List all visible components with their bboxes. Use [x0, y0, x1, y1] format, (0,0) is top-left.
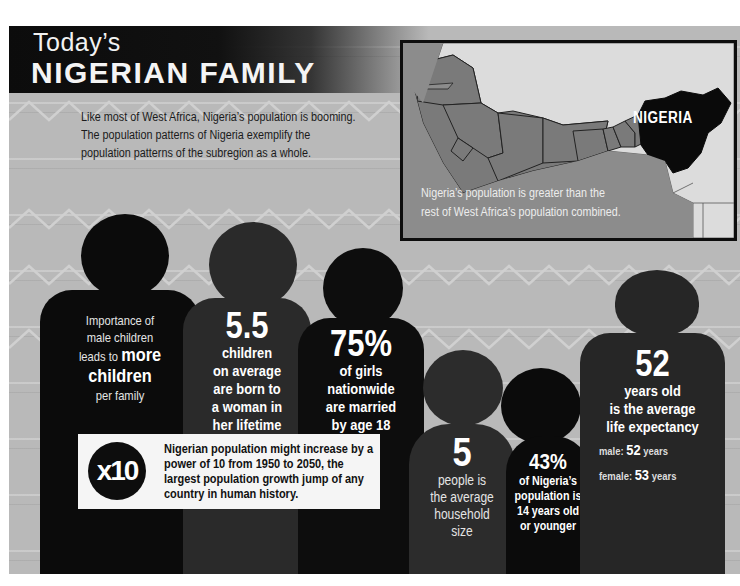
map-caption: Nigeria’s population is greater than the…	[421, 184, 679, 222]
figure-2-text: 5.5 children on average are born to a wo…	[192, 308, 302, 434]
figure-2-line: a woman in	[212, 398, 282, 415]
figure-5-line: 14 years old	[517, 504, 579, 518]
figure-5-head	[501, 368, 581, 444]
figure-2-line: her lifetime	[213, 416, 282, 433]
figure-5-line: or younger	[520, 519, 576, 533]
figure-4-line: the average	[430, 489, 494, 505]
figure-1-text: Importance of male children leads to mor…	[51, 312, 189, 404]
figure-2-line: are born to	[213, 380, 280, 397]
figure-3-stat: 75%	[307, 326, 415, 362]
figure-3-line: are married	[326, 398, 396, 415]
figure-1-line: male children	[87, 330, 154, 345]
figure-5-text: 43% of Nigeria’s population is 14 years …	[508, 450, 587, 534]
figure-4-head	[423, 350, 503, 426]
figure-2-head	[209, 222, 297, 308]
figure-4-stat: 5	[416, 432, 507, 472]
female-value: 53	[635, 466, 649, 483]
figure-6-line: years old	[624, 382, 681, 399]
figure-3-line: of girls	[339, 362, 382, 379]
growth-callout: x10 Nigerian population might increase b…	[78, 434, 380, 509]
figure-6-stat: 52	[590, 346, 715, 382]
female-unit: years	[652, 470, 677, 482]
figure-1-head	[81, 214, 169, 298]
growth-callout-text: Nigerian population might increase by a …	[164, 442, 375, 502]
male-label: male:	[599, 445, 624, 457]
figure-3-line: by age 18	[332, 416, 391, 433]
figure-6-line: is the average	[609, 400, 695, 417]
figure-4-line: size	[451, 523, 472, 539]
female-label: female:	[599, 470, 632, 482]
figure-1-line: per family	[96, 388, 144, 403]
caption-line-2: rest of West Africa’s population combine…	[421, 205, 621, 219]
figure-2-line: children	[222, 344, 272, 361]
intro-text: Like most of West Africa, Nigeria’s popu…	[81, 108, 362, 162]
figure-5-line: population is	[515, 489, 582, 503]
infographic-panel: Today’s NIGERIAN FAMILY Like most of Wes…	[9, 26, 740, 574]
nigeria-label: NIGERIA	[633, 109, 693, 127]
figure-1-emphasis: children	[88, 365, 152, 386]
male-unit: years	[643, 445, 668, 457]
figure-2-stat: 5.5	[192, 308, 302, 344]
figure-6-head	[615, 270, 699, 336]
figure-5-stat: 43%	[508, 450, 587, 474]
figure-5-line: of Nigeria’s	[519, 474, 577, 488]
figure-4-line: household	[434, 506, 490, 522]
life-expectancy-breakdown: male: 52 years female: 53 years	[580, 438, 702, 488]
figure-3-head	[323, 248, 403, 328]
figure-3-line: nationwide	[327, 380, 394, 397]
x10-badge: x10	[88, 442, 146, 500]
figure-1-line: Importance of	[86, 313, 154, 328]
figure-3-text: 75% of girls nationwide are married by a…	[307, 326, 415, 434]
west-africa-map: NIGERIA Nigeria’s population is greater …	[400, 40, 737, 241]
title-small: Today’s	[33, 28, 121, 57]
figure-6-line: life expectancy	[606, 418, 699, 435]
figure-2-line: on average	[213, 362, 281, 379]
figure-4-line: people is	[438, 472, 486, 488]
figure-1-emphasis: more	[121, 344, 161, 365]
figure-1-line: leads to	[79, 349, 121, 364]
figure-4-text: 5 people is the average household size	[416, 432, 507, 540]
male-value: 52	[626, 441, 640, 458]
caption-line-1: Nigeria’s population is greater than the	[421, 186, 605, 200]
page-title: NIGERIAN FAMILY	[31, 56, 316, 90]
figure-6-text: 52 years old is the average life expecta…	[590, 346, 715, 436]
